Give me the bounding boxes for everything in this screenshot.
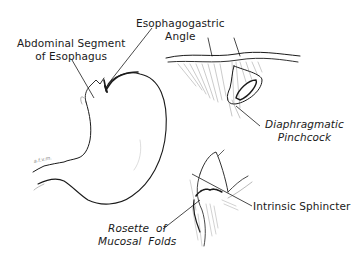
label-abdominal-segment-line1: Abdominal Segment	[17, 37, 125, 50]
diagram-canvas: a.f.v.m.	[0, 0, 361, 266]
label-esophagogastric-angle-line1: Esophagogastric	[136, 17, 225, 30]
label-rosette-line2: Mucosal Folds	[98, 235, 176, 248]
label-abdominal-segment-line2: of Esophagus	[17, 50, 125, 63]
diaphragm-drawing	[166, 38, 300, 118]
label-diaphragmatic-pinchcock-line1: Diaphragmatic	[265, 118, 344, 131]
signature-mark: a.f.v.m.	[33, 154, 52, 164]
leader-abdominal-segment	[72, 60, 94, 98]
cardia-drawing	[190, 150, 252, 246]
label-diaphragmatic-pinchcock-line2: Pinchcock	[265, 131, 344, 144]
label-esophagogastric-angle-line2: Angle	[136, 30, 225, 43]
label-intrinsic-sphincter-line1: Intrinsic Sphincter	[253, 200, 350, 213]
stomach-drawing	[33, 72, 166, 204]
leader-diaphragmatic-pinchcock	[236, 106, 260, 126]
label-esophagogastric-angle: Esophagogastric Angle	[136, 17, 225, 43]
label-abdominal-segment: Abdominal Segment of Esophagus	[17, 37, 125, 63]
label-intrinsic-sphincter: Intrinsic Sphincter	[253, 200, 350, 213]
label-rosette-line1: Rosette of	[98, 222, 176, 235]
label-diaphragmatic-pinchcock: Diaphragmatic Pinchcock	[265, 118, 344, 144]
label-rosette-mucosal-folds: Rosette of Mucosal Folds	[98, 222, 176, 248]
